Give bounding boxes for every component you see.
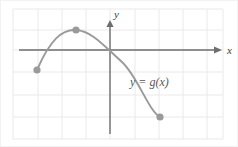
point-right-endpoint (156, 113, 163, 120)
point-left-endpoint (33, 66, 40, 73)
y-axis-label: y (113, 8, 119, 20)
graph-figure: y x y = g(x) (0, 0, 238, 147)
point-local-maximum (72, 26, 79, 33)
figure-border (1, 1, 238, 147)
curve-equation-label: y = g(x) (129, 75, 169, 89)
graph-canvas: y x y = g(x) (0, 0, 238, 147)
x-axis-label: x (226, 44, 232, 56)
